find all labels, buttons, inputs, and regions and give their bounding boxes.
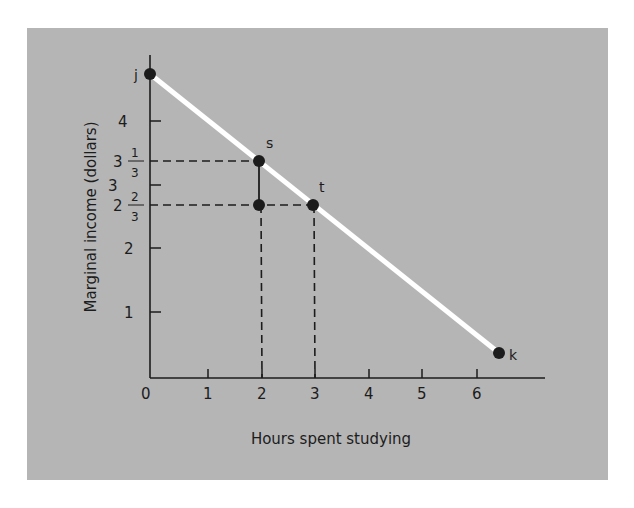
x-tick-labels: 0 1 2 3 4 5 6 [141,385,482,403]
chart-svg: 0 1 2 3 4 5 6 4 3 2 1 3 1 3 2 2 3 [0,0,634,508]
x-tick-label: 0 [141,385,151,403]
svg-text:3: 3 [131,166,139,180]
x-tick-label: 5 [417,385,427,403]
y-ticks [150,121,161,312]
point-t [307,199,319,211]
x-axis-title: Hours spent studying [251,430,411,448]
guide-lines [150,161,315,378]
svg-text:2: 2 [131,190,139,204]
x-tick-label: 3 [310,385,320,403]
label-s: s [266,135,273,151]
marginal-income-line [150,74,499,353]
point-intersect [253,199,265,211]
point-s [253,155,265,167]
y-axis-title: Marginal income (dollars) [82,122,100,313]
y-tick-labels: 4 3 2 1 [108,113,134,322]
svg-text:1: 1 [131,146,139,160]
y-fraction-label-3-1-3: 3 1 3 [113,146,144,180]
y-tick-label: 4 [118,113,128,131]
label-k: k [509,347,518,363]
label-t: t [319,179,325,195]
y-tick-label: 1 [124,304,134,322]
y-tick-label: 3 [108,177,118,195]
point-k [493,347,505,359]
point-j [144,68,156,80]
label-j: j [133,67,138,83]
y-tick-label: 2 [124,240,134,258]
x-ticks [208,369,477,378]
x-tick-label: 1 [203,385,213,403]
x-tick-label: 4 [364,385,374,403]
x-tick-label: 6 [472,385,482,403]
y-fraction-label-2-2-3: 2 2 3 [113,190,144,224]
svg-text:3: 3 [113,153,123,171]
svg-text:3: 3 [131,210,139,224]
svg-text:2: 2 [113,197,123,215]
x-tick-label: 2 [257,385,267,403]
